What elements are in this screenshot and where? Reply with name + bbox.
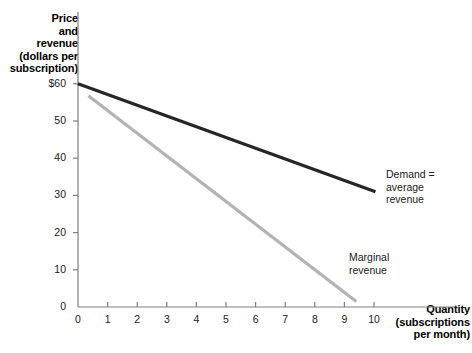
x-tick-label: 9 — [332, 313, 356, 325]
x-tick-label: 8 — [303, 313, 327, 325]
y-tick-label: 30 — [26, 188, 66, 200]
curve-marginal-revenue — [88, 96, 356, 302]
y-tick-label: 50 — [26, 114, 66, 126]
y-tick-label: $60 — [26, 77, 66, 89]
curve-demand-average-revenue — [78, 84, 375, 192]
x-tick-label: 7 — [273, 313, 297, 325]
x-tick-label: 6 — [244, 313, 268, 325]
economics-demand-marginal-revenue-chart: Price and revenue (dollars per subscript… — [0, 0, 472, 353]
y-tick-label: 40 — [26, 151, 66, 163]
x-tick-label: 4 — [184, 313, 208, 325]
x-tick-label: 5 — [214, 313, 238, 325]
x-tick-label: 1 — [96, 313, 120, 325]
y-tick-label: 0 — [26, 300, 66, 312]
y-tick-label: 20 — [26, 226, 66, 238]
curves — [78, 84, 375, 302]
x-tick-label: 3 — [155, 313, 179, 325]
y-tick-label: 10 — [26, 263, 66, 275]
x-tick-label: 0 — [66, 313, 90, 325]
x-tick-label: 10 — [362, 313, 386, 325]
plot-area — [0, 0, 472, 353]
x-tick-label: 2 — [125, 313, 149, 325]
axes — [78, 12, 455, 307]
